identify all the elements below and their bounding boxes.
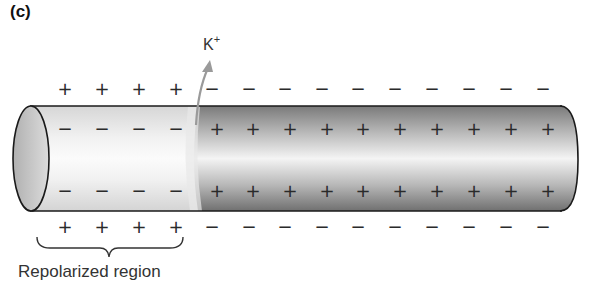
charge: − (92, 181, 112, 201)
charge: + (55, 217, 75, 237)
charge: − (55, 119, 75, 139)
charge: + (464, 119, 484, 139)
region-brace (37, 237, 183, 257)
charge: + (243, 119, 263, 139)
charge: − (312, 79, 332, 99)
charge: + (538, 181, 558, 201)
charge: − (348, 217, 368, 237)
repolarized-region-label: Repolarized region (18, 262, 161, 282)
charge: − (166, 181, 186, 201)
charge: + (207, 119, 227, 139)
charge: + (55, 79, 75, 99)
charge: + (129, 217, 149, 237)
charge: + (353, 119, 373, 139)
charge: + (129, 79, 149, 99)
charge: − (422, 217, 442, 237)
charge: − (275, 217, 295, 237)
inside-bottom-charges: − − − − + + + + + + + + + + (0, 181, 590, 201)
charge: + (92, 217, 112, 237)
charge: − (275, 79, 295, 99)
charge: − (459, 217, 479, 237)
outside-bottom-charges: + + + + − − − − − − − − − − (0, 217, 590, 237)
charge: + (427, 119, 447, 139)
charge: + (166, 79, 186, 99)
charge: + (464, 181, 484, 201)
charge: + (427, 181, 447, 201)
charge: + (280, 119, 300, 139)
inside-top-charges: − − − − + + + + + + + + + + (0, 119, 590, 139)
charge: + (501, 119, 521, 139)
charge: + (390, 181, 410, 201)
charge: + (280, 181, 300, 201)
charge: + (207, 181, 227, 201)
charge: − (533, 79, 553, 99)
charge: + (243, 181, 263, 201)
charge: − (422, 79, 442, 99)
charge: + (353, 181, 373, 201)
charge: − (202, 217, 222, 237)
charge: − (312, 217, 332, 237)
charge: + (390, 119, 410, 139)
charge: − (239, 79, 259, 99)
charge: − (533, 217, 553, 237)
charge: + (317, 119, 337, 139)
charge: − (385, 217, 405, 237)
charge: + (317, 181, 337, 201)
charge: + (166, 217, 186, 237)
charge: − (202, 79, 222, 99)
charge: − (166, 119, 186, 139)
charge: − (385, 79, 405, 99)
charge: − (129, 119, 149, 139)
charge: + (538, 119, 558, 139)
charge: + (92, 79, 112, 99)
charge: − (348, 79, 368, 99)
charge: − (496, 79, 516, 99)
charge: − (55, 181, 75, 201)
charge: − (459, 79, 479, 99)
charge: − (239, 217, 259, 237)
charge: − (496, 217, 516, 237)
charge: − (129, 181, 149, 201)
charge: − (92, 119, 112, 139)
charge: + (501, 181, 521, 201)
outside-top-charges: + + + + − − − − − − − − − − (0, 79, 590, 99)
